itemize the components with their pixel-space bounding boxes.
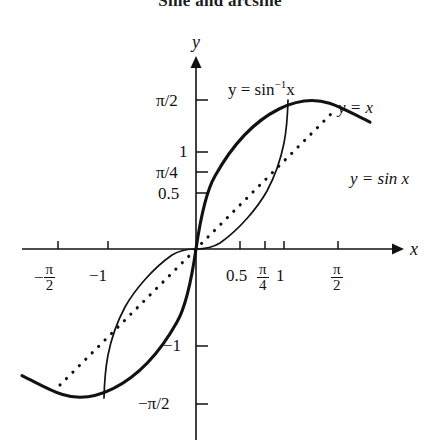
x-label-one: 1 (276, 267, 285, 284)
curve-label-identity: y = x (338, 99, 373, 116)
plot-canvas (0, 0, 440, 446)
curve-label-arcsine-exponent: −1 (274, 78, 286, 90)
y-label-one: 1 (179, 143, 188, 160)
x-axis-label: x (410, 240, 418, 258)
x-label-neg-pi-over-2-fraction: π 2 (44, 262, 56, 294)
fraction-denominator: 2 (331, 278, 343, 293)
curve-label-arcsine-main: y = sin (228, 80, 274, 99)
y-label-neg-pi-over-2: −π/2 (138, 395, 169, 412)
x-label-pi-over-2: π 2 (331, 262, 343, 294)
x-label-half: 0.5 (226, 267, 247, 284)
curve-label-sine: y = sin x (350, 170, 409, 187)
fraction-numerator: π (331, 262, 343, 278)
x-label-pi-over-4: π 4 (257, 262, 269, 294)
fraction-denominator: 4 (257, 278, 269, 293)
x-label-neg-pi-over-2-sign: − (34, 268, 44, 287)
curve-label-arcsine: y = sin−1x (228, 79, 295, 98)
y-label-pi-over-4: π/4 (156, 164, 178, 181)
y-label-half: 0.5 (158, 185, 179, 202)
sine-arcsine-figure: Sine and arcsine π/2 1 π/4 0.5 (0, 0, 440, 446)
x-axis-arrowhead (392, 244, 404, 255)
y-label-pi-over-2: π/2 (156, 92, 178, 109)
x-label-neg-one: −1 (89, 267, 107, 284)
y-axis-arrowhead (191, 56, 202, 68)
figure-title: Sine and arcsine (0, 0, 440, 11)
fraction-numerator: π (257, 262, 269, 278)
y-axis-label: y (192, 33, 200, 51)
fraction-numerator: π (44, 262, 56, 278)
x-label-pi-over-4-fraction: π 4 (257, 262, 269, 294)
y-label-neg-one: −1 (163, 337, 181, 354)
x-label-pi-over-2-fraction: π 2 (331, 262, 343, 294)
curve-label-arcsine-variable: x (286, 80, 295, 99)
fraction-denominator: 2 (44, 278, 56, 293)
x-label-neg-pi-over-2: − π 2 (34, 262, 55, 294)
